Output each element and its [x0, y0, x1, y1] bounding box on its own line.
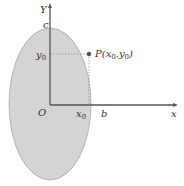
y0-sub: 0: [42, 54, 46, 62]
ellipse-diagram: Y c y0 P(x0,y0) O x0 b x: [0, 0, 184, 186]
x-axis-label: x: [171, 108, 177, 119]
x-axis-arrow-icon: [173, 103, 178, 107]
point-p-label: P(x0,y0): [94, 48, 133, 61]
y-axis-label: Y: [40, 4, 48, 15]
origin-label: O: [38, 107, 46, 118]
y-axis-arrow-icon: [48, 3, 52, 8]
x0-sub: 0: [82, 113, 86, 121]
point-p-marker: [87, 52, 91, 56]
point-p-suffix: ): [128, 48, 133, 59]
ellipse-right-label: b: [101, 108, 107, 119]
ellipse-top-label: c: [43, 19, 49, 30]
